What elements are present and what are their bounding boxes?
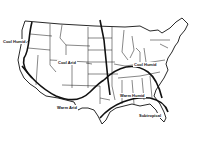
label-subtropical: Subtropical (138, 113, 162, 118)
label-cool-arid: Cool Arid (57, 60, 77, 65)
label-cool-humid-east: Cool Humid (133, 62, 157, 67)
label-cool-humid-west: Cool Humid (2, 39, 26, 44)
label-warm-humid: Warm Humid (119, 93, 146, 98)
us-climate-map (0, 0, 218, 150)
label-warm-arid: Warm Arid (56, 105, 78, 110)
climate-boundaries (22, 20, 168, 118)
